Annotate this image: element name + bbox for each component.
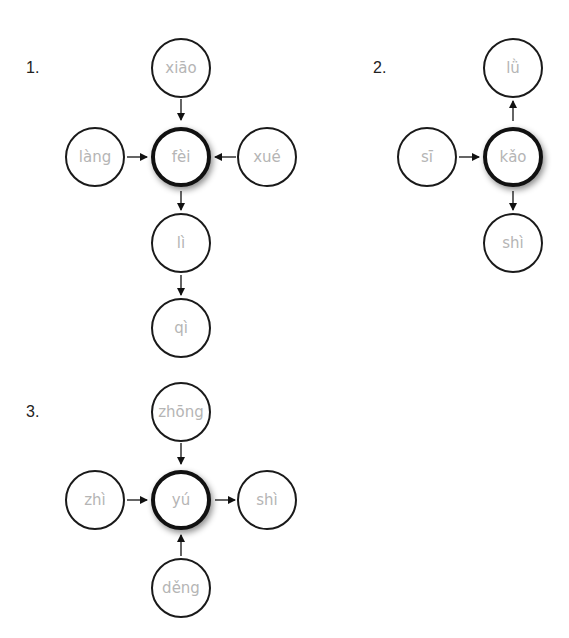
node-label: xiāo [165,59,196,77]
node-label: lǜ [506,59,520,77]
node-label: shì [256,491,278,509]
node-lv: lǜ [483,38,543,98]
node-label: qì [174,319,188,337]
node-li: lì [151,213,211,273]
node-xue: xué [237,127,297,187]
arrows-layer [0,0,569,638]
node-xiao: xiāo [151,38,211,98]
node-lang: làng [65,127,125,187]
diagram-3-number: 3. [26,403,39,421]
node-fei-center: fèi [151,127,211,187]
node-zhi: zhì [65,470,125,530]
node-label: yú [172,491,190,509]
node-label: sī [421,148,433,166]
node-yu-center: yú [151,470,211,530]
node-label: kǎo [499,148,526,166]
node-label: xué [253,148,281,166]
node-zhong: zhōng [151,382,211,442]
node-si: sī [397,127,457,187]
node-label: fèi [172,148,191,166]
node-shi: shì [483,213,543,273]
node-kao-center: kǎo [483,127,543,187]
node-label: làng [79,148,111,166]
node-label: zhōng [158,403,204,421]
node-label: děng [162,579,200,597]
diagram-2-number: 2. [373,59,386,77]
node-shi-right: shì [237,470,297,530]
node-deng: děng [151,558,211,618]
node-qi: qì [151,298,211,358]
node-label: zhì [84,491,106,509]
node-label: shì [502,234,524,252]
diagram-1-number: 1. [26,59,39,77]
node-label: lì [177,234,185,252]
